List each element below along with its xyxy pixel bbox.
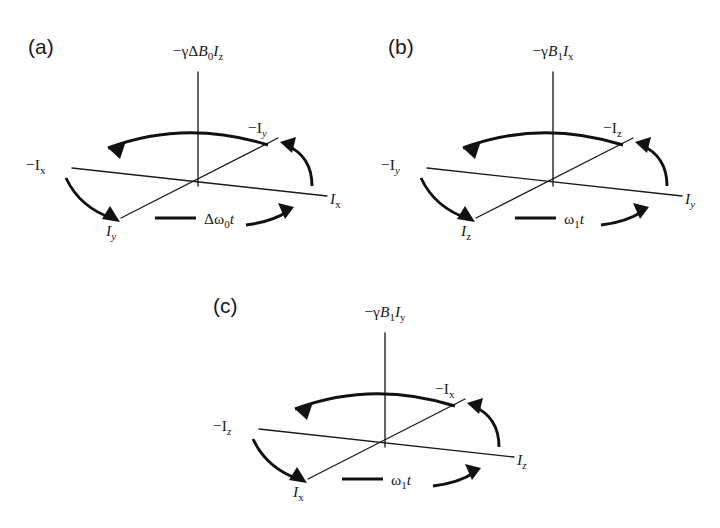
panel-b-label-right: Iy	[684, 190, 695, 210]
panel-a-operator-label: −γΔB0Iz	[173, 42, 224, 62]
panel-c-arc-lower-right	[433, 472, 475, 486]
figure-canvas: (a) −γΔB0Iz −Ix Ix −Iy Iy	[0, 0, 720, 528]
panel-a-arc-right	[286, 145, 312, 186]
panel-a-letter: (a)	[28, 35, 54, 58]
panel-a-label-right: Ix	[329, 190, 341, 210]
panel-a-diagonal-axis	[121, 138, 278, 218]
panel-c-arc-right	[473, 406, 499, 447]
panel-c-arc-top	[295, 394, 455, 409]
panel-b-arc-top	[463, 133, 623, 148]
panel-a-horizontal-axis	[72, 168, 327, 196]
panel-c-operator-label: −γB1Iy	[364, 303, 406, 323]
panel-b-letter: (b)	[388, 35, 414, 58]
panel-c-letter: (c)	[213, 294, 238, 317]
panel-a-rotation-label: Δω0t	[204, 210, 235, 230]
panel-a: (a) −γΔB0Iz −Ix Ix −Iy Iy	[26, 35, 341, 242]
panel-b-label-lower-left: Iz	[460, 222, 471, 242]
panel-c-label-lower-left: Ix	[292, 483, 304, 503]
panel-a-label-upper-right: −Iy	[248, 119, 267, 139]
panel-b-label-left: −Iy	[381, 156, 400, 176]
panel-a-label-left: −Ix	[26, 156, 46, 176]
panel-b-arc-lower-right	[601, 211, 643, 225]
panel-b-operator-label: −γB1Ix	[532, 42, 574, 62]
panel-b: (b) −γB1Ix −Iy Iy −Iz Iz	[381, 35, 695, 242]
panel-c-diagonal-axis	[308, 399, 465, 479]
panel-b-arc-right	[641, 145, 667, 186]
panel-b-diagonal-axis	[476, 138, 633, 218]
panel-c-label-right: Iz	[516, 451, 527, 471]
nmr-rotation-figure: (a) −γΔB0Iz −Ix Ix −Iy Iy	[0, 0, 720, 528]
panel-c: (c) −γB1Iy −Iz Iz −Ix Ix	[213, 294, 527, 503]
panel-c-label-upper-right: −Ix	[435, 380, 455, 400]
panel-c-horizontal-axis	[259, 429, 514, 457]
panel-b-rotation-label: ω1t	[564, 210, 585, 230]
panel-c-label-left: −Iz	[213, 417, 232, 437]
panel-a-label-lower-left: Iy	[105, 222, 116, 242]
panel-c-rotation-label: ω1t	[391, 471, 412, 491]
panel-a-arc-lower-right	[246, 211, 288, 225]
panel-a-arc-top	[108, 133, 268, 148]
panel-b-label-upper-right: −Iz	[603, 119, 622, 139]
panel-b-horizontal-axis	[427, 168, 682, 196]
